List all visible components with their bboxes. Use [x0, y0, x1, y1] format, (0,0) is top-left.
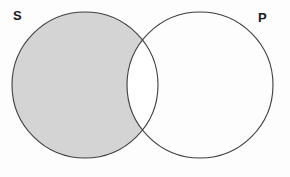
circle-label-p: P	[258, 11, 267, 24]
circle-label-s: S	[13, 9, 22, 22]
venn-diagram: S P	[0, 0, 290, 177]
venn-svg-canvas	[0, 0, 290, 177]
